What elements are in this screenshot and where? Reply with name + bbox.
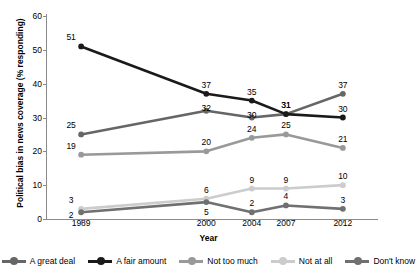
legend-marker-icon [271,257,295,266]
x-tick-mark [252,219,253,223]
data-point [249,98,255,104]
legend-label: A great deal [30,256,75,266]
data-point [203,91,209,97]
data-label: 32 [191,103,221,113]
x-tick-mark [206,219,207,223]
y-tick-label: 40 [0,79,42,89]
data-label: 10 [328,171,358,181]
legend-dot [10,257,18,265]
data-label: 25 [56,120,86,130]
legend-item[interactable]: A great deal [2,256,75,266]
x-tick-mark [343,219,344,223]
y-tick-label: 10 [0,180,42,190]
data-label: 20 [191,137,221,147]
data-label: 9 [237,175,267,185]
line-chart: Political bias in news coverage (% respo… [0,0,417,275]
legend-label: Don't know [373,256,415,266]
y-tick-label: 60 [0,11,42,21]
x-axis-title: Year [0,233,417,243]
data-point [283,203,289,209]
data-label: 2 [237,198,267,208]
data-point [283,111,289,117]
legend-item[interactable]: Not too much [179,256,258,266]
data-label: 3 [328,195,358,205]
data-label: 9 [271,175,301,185]
y-tick-label: 20 [0,146,42,156]
data-point [78,132,84,138]
data-label: 30 [328,104,358,114]
data-label: 5 [191,207,221,217]
data-label: 37 [191,80,221,90]
data-label: 51 [56,32,86,42]
legend-item[interactable]: Not at all [271,256,333,266]
data-point [249,186,255,192]
legend-label: Not at all [299,256,333,266]
data-point [203,148,209,154]
chart-legend: A great dealA fair amountNot too muchNot… [0,252,417,270]
legend-marker-icon [2,257,26,266]
data-label: 24 [237,124,267,134]
legend-dot [354,257,362,265]
y-tick-label: 30 [0,113,42,123]
data-point [340,182,346,188]
data-point [249,135,255,141]
data-point [340,206,346,212]
data-point [340,91,346,97]
data-label: 37 [328,80,358,90]
data-point [78,152,84,158]
data-label: 19 [56,141,86,151]
data-point [340,145,346,151]
legend-item[interactable]: A fair amount [88,256,166,266]
data-label: 3 [56,195,86,205]
data-label: 35 [237,87,267,97]
legend-dot [97,257,105,265]
data-point [78,44,84,50]
data-point [283,132,289,138]
data-label: 4 [271,191,301,201]
data-label: 31 [271,100,301,110]
data-label: 2 [56,210,86,220]
data-point [249,209,255,215]
data-label: 6 [191,185,221,195]
legend-marker-icon [179,257,203,266]
y-tick-label: 0 [0,214,42,224]
legend-dot [279,257,287,265]
data-label: 21 [328,134,358,144]
legend-marker-icon [345,257,369,266]
data-point [203,199,209,205]
data-label: 30 [237,110,267,120]
x-tick-mark [286,219,287,223]
legend-item[interactable]: Don't know [345,256,415,266]
legend-marker-icon [88,257,112,266]
legend-label: Not too much [207,256,258,266]
data-point [340,115,346,121]
legend-label: A fair amount [116,256,166,266]
legend-dot [188,257,196,265]
y-tick-label: 50 [0,45,42,55]
data-label: 25 [271,120,301,130]
